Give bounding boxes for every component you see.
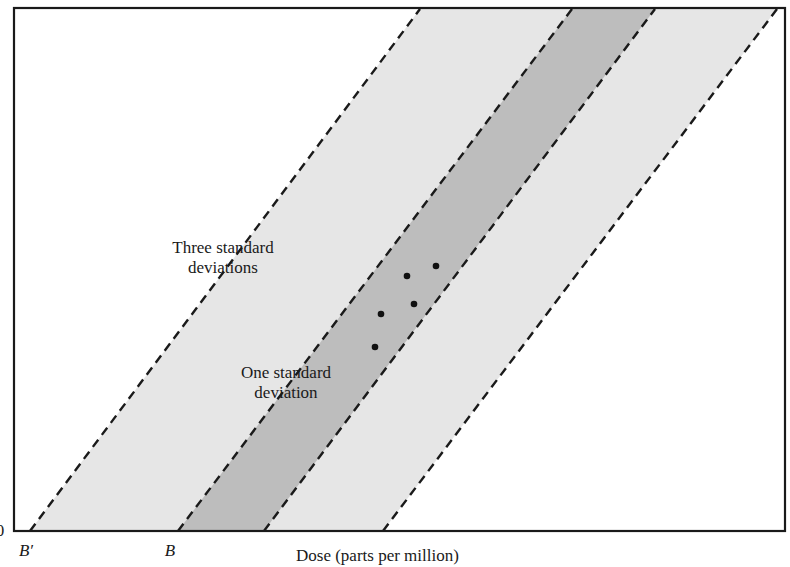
data-point [411,301,418,308]
b-marker: B [160,541,180,561]
one-sd-label-line1: One standard [212,363,360,383]
dose-response-chart [0,0,790,567]
data-point [372,344,379,351]
three-sd-label-line2: deviations [148,258,298,278]
data-point [433,263,440,270]
data-point [404,273,411,280]
data-point [378,311,385,318]
b-prime-marker: B′ [14,541,38,561]
three-sd-label-line1: Three standard [148,238,298,258]
x-axis-label: Dose (parts per million) [296,546,496,566]
one-sd-annotation: One standard deviation [212,363,360,403]
three-sd-annotation: Three standard deviations [148,238,298,278]
one-sd-label-line2: deviation [212,383,360,403]
y-origin-label: 0 [0,521,6,541]
